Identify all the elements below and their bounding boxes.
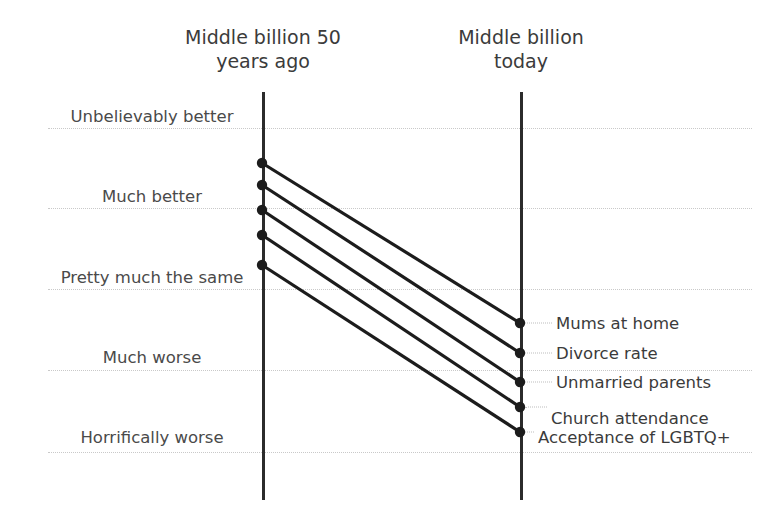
- slope-line: [262, 185, 520, 353]
- label-leader-line: [525, 432, 534, 433]
- scale-label: Much worse: [103, 348, 202, 367]
- series-label: Church attendance: [551, 409, 709, 428]
- axis-line-left: [262, 92, 265, 500]
- slopegraph-chart: Middle billion 50 years ago Middle billi…: [0, 0, 780, 522]
- column-header-left: Middle billion 50 years ago: [150, 26, 376, 74]
- scale-label: Horrifically worse: [80, 428, 223, 447]
- column-header-right: Middle billion today: [408, 26, 634, 74]
- slope-line: [262, 265, 520, 432]
- gridline: [48, 452, 752, 453]
- gridline: [48, 128, 752, 129]
- scale-label: Much better: [102, 187, 202, 206]
- gridline: [48, 208, 752, 209]
- series-label: Unmarried parents: [556, 373, 711, 392]
- gridline: [48, 370, 752, 371]
- slope-line: [262, 210, 520, 382]
- label-leader-line: [525, 407, 547, 408]
- slope-line: [262, 235, 520, 407]
- label-leader-line: [525, 323, 552, 324]
- scale-label: Unbelievably better: [71, 107, 234, 126]
- series-label: Divorce rate: [556, 344, 658, 363]
- gridline: [48, 289, 752, 290]
- label-leader-line: [525, 353, 552, 354]
- axis-line-right: [520, 92, 523, 500]
- slope-line: [262, 163, 520, 323]
- series-label: Acceptance of LGBTQ+: [538, 428, 731, 447]
- series-label: Mums at home: [556, 314, 679, 333]
- label-leader-line: [525, 382, 552, 383]
- scale-label: Pretty much the same: [61, 268, 244, 287]
